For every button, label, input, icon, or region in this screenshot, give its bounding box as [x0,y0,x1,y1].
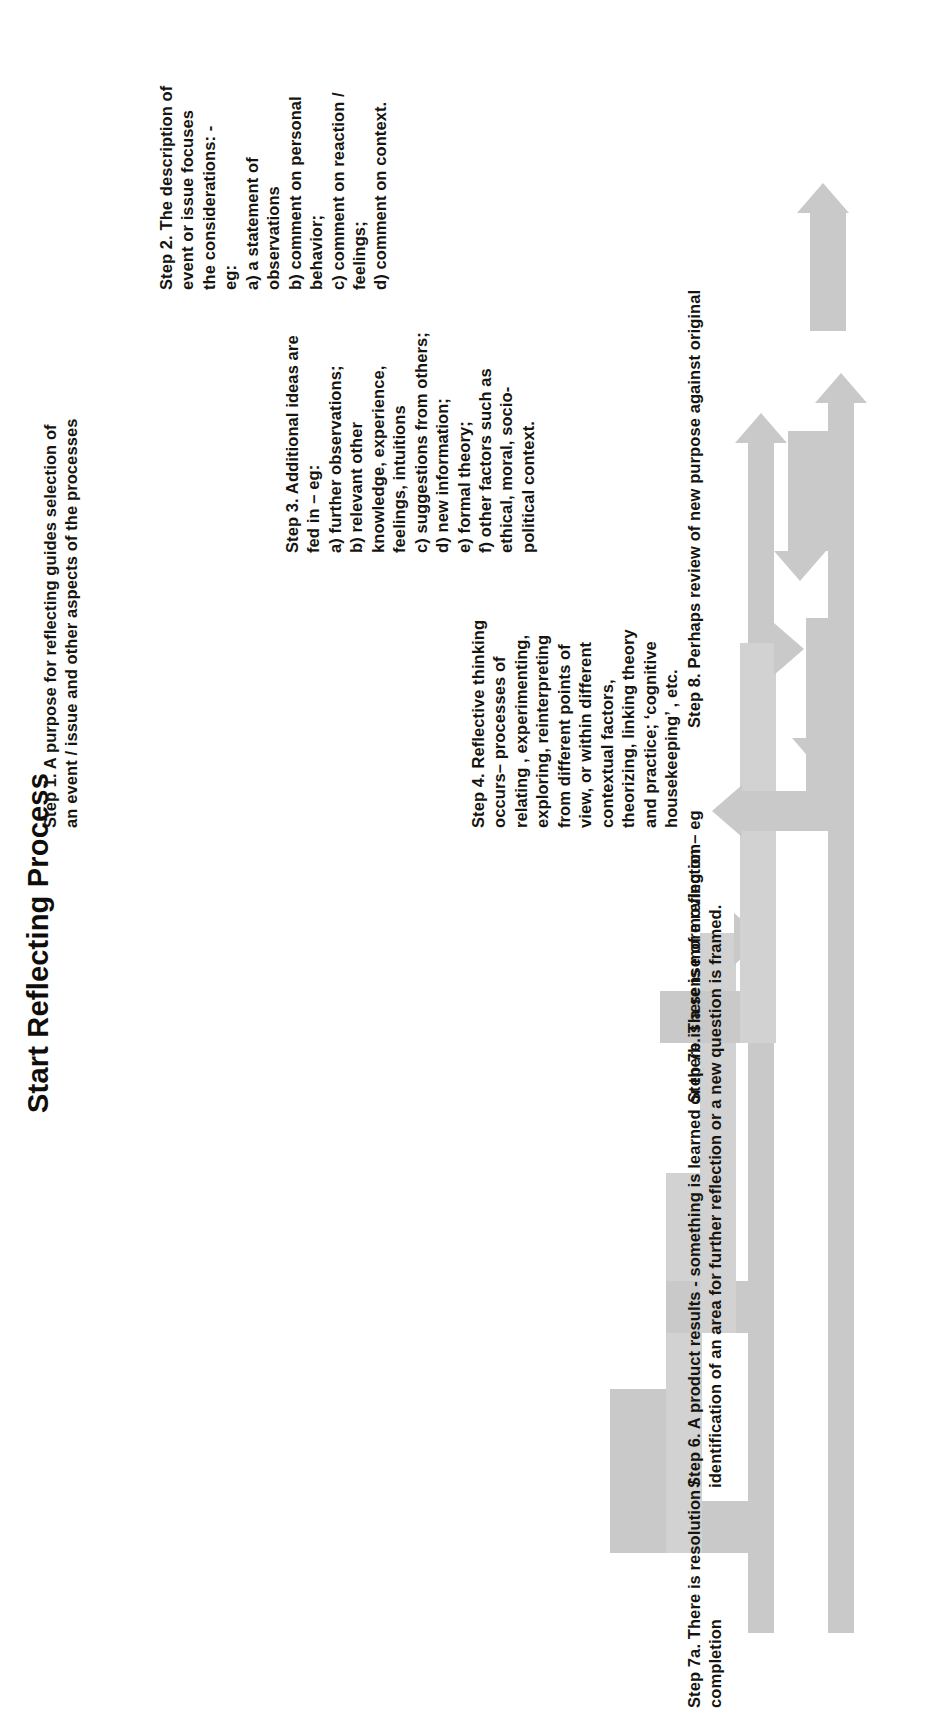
step-8-text: Step 8. Perhaps review of new purpose ag… [684,168,705,728]
step-1-text: Step 1. A purpose for reflecting guides … [40,408,83,828]
step-6-text: Step 6. A product results - something is… [684,708,727,1488]
step-3-text: Step 3. Additional ideas are fed in – eg… [282,328,539,553]
diagram-canvas: Start Reflecting Process [0,0,940,1733]
step-7a-text: Step 7a. There is resolution / completio… [684,1408,727,1708]
step-2-text: Step 2. The description of event or issu… [156,85,392,290]
step-4-text: Step 4. Reflective thinking occurs– proc… [468,603,682,828]
